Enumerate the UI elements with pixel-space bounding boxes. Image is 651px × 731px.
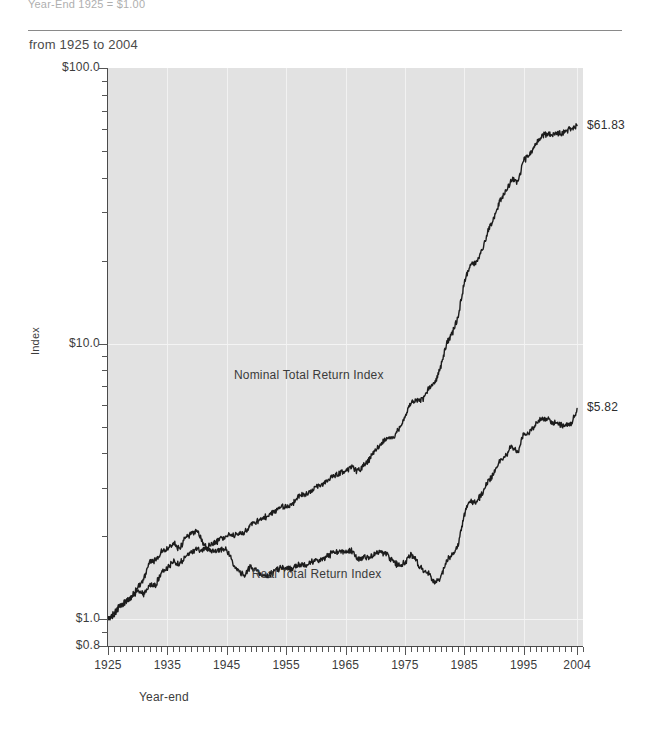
x-tick-minor [423, 647, 424, 652]
x-tick-minor [547, 647, 548, 652]
x-tick-minor [132, 647, 133, 652]
index-line-chart: $100.0$10.0$1.0$0.8192519351945195519651… [0, 0, 651, 731]
x-tick-minor [375, 647, 376, 652]
x-tick-minor [120, 647, 121, 652]
x-axis-tick-label: 2004 [547, 658, 607, 672]
x-tick-minor [239, 647, 240, 652]
x-tick-minor [530, 647, 531, 652]
x-tick-minor [245, 647, 246, 652]
x-tick-minor [268, 647, 269, 652]
x-tick-minor [197, 647, 198, 652]
x-tick-minor [274, 647, 275, 652]
x-tick-minor [506, 647, 507, 652]
x-tick-major [286, 647, 287, 655]
x-axis-tick-label: 1985 [434, 658, 494, 672]
x-tick-minor [161, 647, 162, 652]
x-tick-minor [138, 647, 139, 652]
x-tick-minor [316, 647, 317, 652]
y-tick-major [99, 646, 108, 647]
x-tick-minor [280, 647, 281, 652]
y-axis-tick-label: $1.0 [40, 611, 100, 625]
x-axis-title: Year-end [139, 690, 189, 704]
series-line-real [108, 408, 577, 619]
x-tick-minor [328, 647, 329, 652]
x-tick-minor [298, 647, 299, 652]
x-tick-minor [387, 647, 388, 652]
x-tick-minor [541, 647, 542, 652]
x-tick-minor [458, 647, 459, 652]
x-tick-minor [363, 647, 364, 652]
x-axis-tick-label: 1945 [197, 658, 257, 672]
series-lines [108, 68, 583, 646]
x-tick-minor [512, 647, 513, 652]
x-tick-minor [536, 647, 537, 652]
x-axis-tick-label: 1955 [256, 658, 316, 672]
x-tick-minor [221, 647, 222, 652]
x-axis-tick-label: 1965 [316, 658, 376, 672]
series-inline-label: Real Total Return Index [252, 567, 382, 581]
x-axis-tick-label: 1935 [137, 658, 197, 672]
x-tick-minor [304, 647, 305, 652]
x-tick-minor [256, 647, 257, 652]
x-tick-minor [215, 647, 216, 652]
x-tick-minor [369, 647, 370, 652]
x-tick-minor [446, 647, 447, 652]
x-tick-minor [334, 647, 335, 652]
x-tick-minor [351, 647, 352, 652]
x-tick-major [227, 647, 228, 655]
x-tick-minor [482, 647, 483, 652]
x-tick-minor [452, 647, 453, 652]
x-tick-minor [518, 647, 519, 652]
x-tick-minor [441, 647, 442, 652]
x-tick-major [577, 647, 578, 655]
x-tick-minor [322, 647, 323, 652]
x-tick-minor [126, 647, 127, 652]
x-tick-major [167, 647, 168, 655]
x-tick-minor [203, 647, 204, 652]
x-tick-minor [553, 647, 554, 652]
y-axis-tick-label: $100.0 [40, 60, 100, 74]
x-tick-minor [411, 647, 412, 652]
x-tick-minor [417, 647, 418, 652]
x-tick-minor [185, 647, 186, 652]
x-tick-minor [251, 647, 252, 652]
y-tick-major [99, 344, 108, 345]
x-axis-tick-label: 1925 [78, 658, 138, 672]
x-tick-minor [114, 647, 115, 652]
x-axis-tick-label: 1995 [494, 658, 554, 672]
endpoint-value-label: $5.82 [587, 400, 618, 414]
x-tick-major [524, 647, 525, 655]
x-tick-minor [179, 647, 180, 652]
x-tick-minor [233, 647, 234, 652]
x-tick-minor [494, 647, 495, 652]
x-tick-minor [429, 647, 430, 652]
x-tick-minor [435, 647, 436, 652]
y-tick-major [99, 619, 108, 620]
x-tick-minor [340, 647, 341, 652]
x-tick-minor [262, 647, 263, 652]
series-inline-label: Nominal Total Return Index [234, 368, 384, 382]
x-tick-minor [310, 647, 311, 652]
x-tick-major [405, 647, 406, 655]
x-tick-minor [565, 647, 566, 652]
x-tick-minor [399, 647, 400, 652]
x-tick-major [108, 647, 109, 655]
x-tick-major [464, 647, 465, 655]
x-tick-minor [156, 647, 157, 652]
x-tick-minor [191, 647, 192, 652]
y-axis-title: Index [29, 301, 41, 381]
chart-page: Year-End 1925 = $1.00 from 1925 to 2004 … [0, 0, 651, 731]
endpoint-value-label: $61.83 [587, 118, 625, 132]
y-axis-tick-label: $0.8 [40, 638, 100, 652]
x-tick-minor [173, 647, 174, 652]
x-tick-minor [571, 647, 572, 652]
x-tick-minor [357, 647, 358, 652]
x-tick-minor [209, 647, 210, 652]
x-tick-minor [583, 647, 584, 652]
x-tick-minor [500, 647, 501, 652]
x-tick-minor [470, 647, 471, 652]
x-tick-minor [150, 647, 151, 652]
x-tick-minor [559, 647, 560, 652]
x-tick-minor [488, 647, 489, 652]
x-tick-minor [381, 647, 382, 652]
